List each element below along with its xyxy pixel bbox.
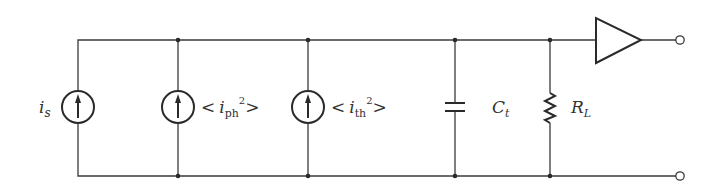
circuit-diagram: is <iph2> <ith2> Ct RL [0, 0, 716, 196]
top-rail [78, 40, 596, 91]
label-is: is [39, 97, 51, 120]
capacitor-ct [445, 103, 465, 111]
output-terminal-top [676, 36, 684, 44]
label-ct: Ct [492, 97, 510, 120]
junction-dot [548, 38, 553, 43]
arrow-up-icon [75, 94, 81, 103]
junction-dot [306, 174, 311, 179]
junction-dot [548, 174, 553, 179]
resistor-rl [545, 93, 555, 123]
label-ith: <ith2> [331, 95, 387, 120]
junction-dot [453, 38, 458, 43]
output-terminal-bottom [676, 172, 684, 180]
label-rl: RL [570, 97, 591, 120]
arrow-up-icon [175, 94, 181, 103]
junction-dot [176, 174, 181, 179]
bottom-rail [78, 123, 676, 176]
current-source-is [62, 91, 94, 123]
junction-dot [453, 174, 458, 179]
junction-dot [306, 38, 311, 43]
label-iph: <iph2> [201, 95, 259, 120]
current-source-ith [292, 91, 324, 123]
junction-dot [176, 38, 181, 43]
current-source-iph [162, 91, 194, 123]
amplifier-triangle [596, 18, 641, 63]
arrow-up-icon [305, 94, 311, 103]
